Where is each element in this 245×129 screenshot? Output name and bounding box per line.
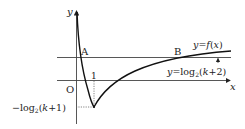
minimum-value-label: −log2(k+1) bbox=[12, 102, 66, 114]
origin-label: O bbox=[66, 84, 74, 95]
point-label-a: A bbox=[80, 46, 89, 57]
curve-label: y=f(x) bbox=[192, 39, 223, 50]
line-label: y=log2(k+2) bbox=[166, 66, 226, 78]
x-axis-label: x bbox=[230, 81, 236, 92]
point-label-b: B bbox=[174, 46, 181, 57]
tick-label-1: 1 bbox=[91, 71, 97, 81]
y-axis-label: y bbox=[66, 6, 73, 17]
curve-f-of-x bbox=[77, 12, 231, 107]
minimum-point bbox=[93, 106, 95, 108]
graph-figure: y x O 1 A B y=f(x) y=log2(k+2) −log2(k+1… bbox=[0, 0, 245, 129]
